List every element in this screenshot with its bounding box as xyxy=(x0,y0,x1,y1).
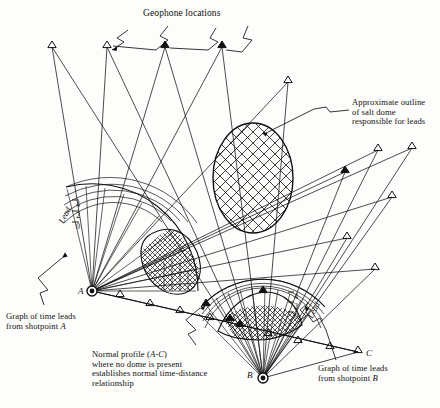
salt-dome-callout-line3: responsible for leads xyxy=(352,117,438,127)
normal-profile-callout: Normal profile (A-C) where no dome is pr… xyxy=(92,350,220,389)
lead-tick-a-2: 2 xyxy=(76,211,80,220)
salt-dome-outline xyxy=(205,118,305,240)
lead-tick-b-0: 0 xyxy=(294,312,298,321)
graph-a-callout-line2: from shotpoint A xyxy=(6,322,102,332)
shotpoint-marker-a xyxy=(87,286,97,296)
leader-lines xyxy=(38,26,349,360)
graph-b-shotpoint-letter: B xyxy=(373,373,378,383)
shotpoint-label-b: B xyxy=(247,370,253,380)
endpoint-label-c: C xyxy=(366,348,372,358)
figure-canvas: Geophone locations Approximate outline o… xyxy=(0,0,440,408)
lead-tick-b-2: 2 xyxy=(294,302,298,311)
lead-tick-a-0: 0 xyxy=(76,222,80,231)
shotpoint-marker-b xyxy=(258,373,268,383)
normal-profile-line4: relationship xyxy=(92,379,220,389)
seismic-fan-diagram xyxy=(0,0,440,408)
salt-dome-callout: Approximate outline of salt dome respons… xyxy=(352,98,438,127)
normal-profile-ac: A-C xyxy=(150,349,164,359)
lead-tick-b-4: 4 xyxy=(294,292,298,301)
geophone-locations-label: Geophone locations xyxy=(143,8,221,19)
shotpoint-label-a: A xyxy=(78,286,84,296)
graph-a-shotpoint-letter: A xyxy=(61,321,66,331)
graph-b-callout-line2: from shotpoint B xyxy=(318,374,428,384)
lead-graph-shotpoint-a xyxy=(64,177,200,294)
graph-a-callout: Graph of time leads from shotpoint A xyxy=(6,312,102,331)
graph-b-callout: Graph of time leads from shotpoint B xyxy=(318,364,428,383)
lead-tick-a-4: 4 xyxy=(76,200,80,209)
